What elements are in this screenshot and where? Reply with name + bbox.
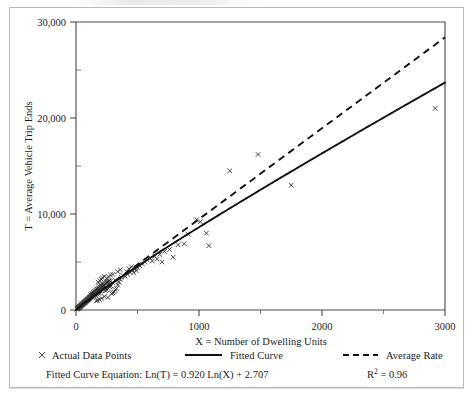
fitted-curve-equation: Fitted Curve Equation: Ln(T) = 0.920 Ln(… (46, 369, 268, 381)
data-point-markers (75, 106, 438, 311)
x-tick-label-0: 0 (73, 321, 78, 332)
data-point-marker (171, 255, 176, 260)
data-point-marker (433, 106, 438, 111)
data-point-marker (160, 260, 165, 265)
x-tick-label-1000: 1000 (189, 321, 210, 332)
y-tick-label-30000: 30,000 (37, 17, 66, 28)
fitted-curve-line (76, 83, 445, 310)
x-axis-minor-ticks (138, 310, 384, 314)
data-point-marker (118, 267, 123, 272)
y-tick-label-20000: 20,000 (37, 113, 66, 124)
data-point-marker (106, 295, 111, 300)
equation-prefix: Fitted Curve Equation: (46, 369, 142, 380)
y-axis-major-ticks (70, 22, 76, 310)
legend-label-fitted-curve: Fitted Curve (230, 350, 283, 361)
r-squared-annotation: R2 = 0.96 (367, 367, 407, 380)
y-axis-title: T = Average Vehicle Trip Ends (23, 101, 34, 230)
data-point-marker (155, 257, 160, 262)
data-point-marker (167, 247, 172, 252)
legend-marker-actual-data-points-icon (39, 352, 45, 358)
data-point-marker (227, 169, 232, 174)
x-axis-title: X = Number of Dwelling Units (195, 336, 327, 347)
data-point-marker (204, 231, 209, 236)
y-tick-label-10000: 10,000 (37, 209, 66, 220)
data-point-marker (256, 152, 261, 157)
data-point-marker (102, 294, 107, 299)
x-tick-label-2000: 2000 (312, 321, 333, 332)
data-point-marker (176, 242, 181, 247)
x-tick-label-3000: 3000 (435, 321, 456, 332)
r-squared-value: = 0.96 (380, 369, 407, 380)
y-tick-label-0: 0 (61, 305, 66, 316)
r-squared-symbol: R (367, 369, 374, 380)
equation-body: Ln(T) = 0.920 Ln(X) + 2.707 (145, 369, 269, 381)
scatter-plot: 30,000 20,000 10,000 0 0 1000 2000 3000 … (0, 0, 474, 396)
figure-container: 30,000 20,000 10,000 0 0 1000 2000 3000 … (0, 0, 474, 396)
y-axis-minor-ticks (76, 70, 81, 262)
data-point-marker (182, 241, 187, 246)
legend-label-actual-data-points: Actual Data Points (52, 350, 131, 361)
legend: Actual Data Points Fitted Curve Average … (39, 350, 443, 361)
legend-label-average-rate: Average Rate (386, 350, 443, 361)
data-point-marker (289, 183, 294, 188)
data-point-marker (150, 259, 155, 264)
data-point-marker (207, 243, 212, 248)
